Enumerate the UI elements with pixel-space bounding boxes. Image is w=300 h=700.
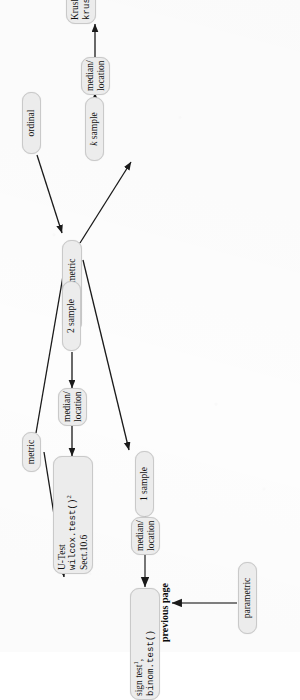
sign-line1-tail: ,	[134, 659, 144, 661]
node-2-sample[interactable]: 2 sample	[62, 281, 81, 351]
edge-nonparametric-1sample	[83, 260, 129, 450]
median-loc-1-line1: median/	[135, 520, 145, 551]
node-median-location-1[interactable]: median/ location	[131, 517, 160, 555]
node-2-sample-label: 2 sample	[66, 285, 77, 347]
node-1-sample-label: 1 sample	[139, 455, 150, 513]
utest-line1-text: U-Test	[57, 544, 67, 570]
kruskal-line2-code: kruskal.test()	[82, 0, 92, 20]
node-median-location-2[interactable]: median/ location	[58, 388, 87, 426]
node-median-location-2-label: median/ location	[62, 392, 83, 422]
node-k-sample[interactable]: k sample	[85, 97, 104, 161]
previous-page-text: previous page	[159, 583, 170, 642]
node-sign-test[interactable]: sign test1, binom.test()	[130, 588, 160, 700]
median-loc-1-line2: location	[146, 520, 156, 551]
node-median-location-k[interactable]: median/ location	[81, 57, 110, 95]
node-parametric[interactable]: parametric	[238, 562, 257, 634]
node-kruskal-wallis-test[interactable]: Kruskal-Wallis test3 kruskal.test()	[66, 0, 96, 24]
node-median-location-k-label: median/ location	[85, 61, 106, 91]
node-ordinal-label: ordinal	[26, 96, 37, 150]
utest-line3-text: Sect.10.6	[79, 535, 89, 570]
median-loc-k-line1: median/	[85, 60, 95, 91]
k-sample-italic-k: k	[89, 142, 99, 146]
kruskal-line1: Kruskal-Wallis test3	[70, 0, 80, 20]
median-loc-k-line2: location	[96, 60, 106, 91]
previous-page-label[interactable]: previous page	[159, 583, 170, 642]
edge-nonparametric-ksample	[80, 162, 131, 243]
node-k-sample-label: k sample	[89, 101, 100, 157]
node-parametric-label: parametric	[242, 566, 253, 630]
k-sample-rest: sample	[89, 112, 99, 141]
node-sign-test-label: sign test1, binom.test()	[134, 592, 156, 696]
kruskal-line1-text: Kruskal-Wallis test	[70, 0, 80, 20]
edge-ordinal-nonparametric	[37, 155, 62, 233]
sign-line1: sign test1,	[134, 659, 144, 696]
node-metric[interactable]: metric	[22, 432, 41, 472]
node-u-test-label: U-Test wilcox.test()2 Sect.10.6	[57, 460, 89, 570]
sign-line1-text: sign test	[134, 665, 144, 696]
utest-line2-code: wilcox.test()	[68, 498, 78, 570]
node-metric-label: metric	[26, 436, 37, 468]
node-kruskal-label: Kruskal-Wallis test3 kruskal.test()	[70, 0, 92, 20]
median-loc-2-line1: median/	[62, 391, 72, 422]
node-u-test[interactable]: U-Test wilcox.test()2 Sect.10.6	[53, 456, 93, 574]
utest-line2-sup: 2	[65, 495, 72, 498]
node-ordinal[interactable]: ordinal	[22, 92, 41, 154]
node-median-location-1-label: median/ location	[135, 521, 156, 551]
sign-line2-code: binom.test()	[146, 630, 156, 696]
utest-line2: wilcox.test()2	[67, 495, 77, 570]
sign-line1-sup: 1	[132, 661, 139, 664]
median-loc-2-line2: location	[73, 391, 83, 422]
node-1-sample[interactable]: 1 sample	[135, 451, 154, 517]
